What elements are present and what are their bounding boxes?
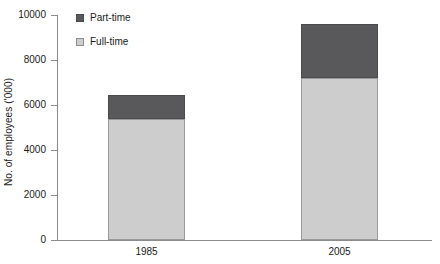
y-tick-mark-0	[51, 240, 57, 241]
legend-swatch-full-time-icon	[76, 38, 84, 46]
bar-2005	[301, 24, 378, 240]
legend-label-part-time: Part-time	[90, 12, 131, 23]
x-axis-line	[57, 240, 432, 241]
legend-item-part-time: Part-time	[76, 12, 131, 23]
bar-1985	[108, 95, 185, 240]
bar-1985-full-time-segment	[108, 119, 185, 241]
legend-swatch-part-time-icon	[76, 14, 84, 22]
y-tick-label-8000: 8000	[0, 55, 46, 65]
y-tick-label-10000: 10000	[0, 10, 46, 20]
bar-2005-full-time-segment	[301, 78, 378, 240]
y-tick-label-4000: 4000	[0, 145, 46, 155]
y-axis-title: No. of employees ('000)	[0, 0, 16, 264]
x-axis-label-2005: 2005	[301, 246, 378, 257]
legend-item-full-time: Full-time	[76, 36, 131, 47]
bar-chart: No. of employees ('000) 0 2000 4000 6000…	[0, 0, 440, 264]
bar-2005-part-time-segment	[301, 24, 378, 78]
y-tick-label-2000: 2000	[0, 190, 46, 200]
legend: Part-time Full-time	[76, 12, 131, 60]
legend-label-full-time: Full-time	[90, 36, 128, 47]
y-tick-label-0: 0	[0, 235, 46, 245]
bar-1985-part-time-segment	[108, 95, 185, 119]
x-axis-label-1985: 1985	[108, 246, 185, 257]
y-tick-label-6000: 6000	[0, 100, 46, 110]
